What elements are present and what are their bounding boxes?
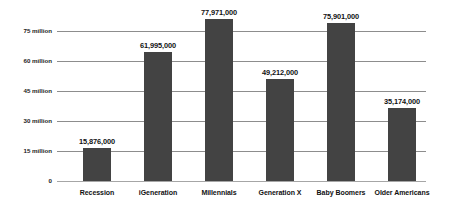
- y-axis-tick-15m: 15 million: [0, 147, 52, 154]
- category-label-baby-boomers: Baby Boomers: [307, 189, 375, 196]
- bar-chart: 75 million 60 million 45 million 30 mill…: [0, 0, 450, 219]
- bar-value-generation-x: 49,212,000: [262, 68, 298, 77]
- x-axis-category-labels: Recession iGeneration Millennials Genera…: [57, 189, 426, 203]
- bar-value-recession: 15,876,000: [79, 137, 115, 146]
- bar-slot-igeneration: 61,995,000: [144, 0, 172, 181]
- bar-slot-baby-boomers: 75,901,000: [327, 0, 355, 181]
- bar-older-americans[interactable]: [388, 108, 416, 181]
- category-label-igeneration: iGeneration: [124, 189, 192, 196]
- y-axis-tick-0: 0: [0, 177, 52, 184]
- bar-slot-millennials: 77,971,000: [205, 0, 233, 181]
- bar-baby-boomers[interactable]: [327, 23, 355, 181]
- x-axis-line: [57, 181, 426, 182]
- bar-slot-generation-x: 49,212,000: [266, 0, 294, 181]
- bar-value-older-americans: 35,174,000: [384, 97, 420, 106]
- y-axis-tick-45m: 45 million: [0, 87, 52, 94]
- y-axis-tick-75m: 75 million: [0, 27, 52, 34]
- bar-generation-x[interactable]: [266, 79, 294, 181]
- bar-recession[interactable]: [83, 148, 111, 181]
- category-label-generation-x: Generation X: [246, 189, 314, 196]
- bar-slot-older-americans: 35,174,000: [388, 0, 416, 181]
- category-label-millennials: Millennials: [185, 189, 253, 196]
- bars-layer: 15,876,000 61,995,000 77,971,000 49,212,…: [57, 0, 426, 181]
- category-label-older-americans: Older Americans: [366, 189, 438, 196]
- bar-value-baby-boomers: 75,901,000: [323, 12, 359, 21]
- y-axis-tick-60m: 60 million: [0, 57, 52, 64]
- bar-igeneration[interactable]: [144, 52, 172, 181]
- bar-slot-recession: 15,876,000: [83, 0, 111, 181]
- bar-millennials[interactable]: [205, 19, 233, 181]
- bar-value-millennials: 77,971,000: [201, 8, 237, 17]
- bar-value-igeneration: 61,995,000: [140, 41, 176, 50]
- y-axis-tick-30m: 30 million: [0, 117, 52, 124]
- category-label-recession: Recession: [63, 189, 131, 196]
